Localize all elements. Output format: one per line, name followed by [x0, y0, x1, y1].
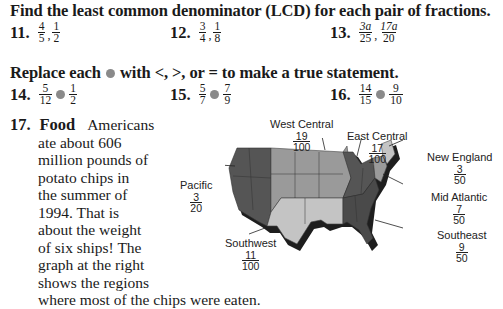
region-label-southwest: Southwest 11100 — [225, 238, 276, 271]
fraction: 1415 — [359, 83, 373, 106]
fraction: 17a20 — [379, 21, 398, 44]
region-label-west-central: West Central 19100 — [270, 119, 333, 152]
exercise-13: 13. 3a25 , 17a20 — [330, 21, 399, 44]
exercise-number: 11. — [10, 23, 30, 43]
fraction: 512 — [39, 83, 53, 106]
fraction: 18 — [213, 21, 221, 44]
circle-placeholder-icon — [106, 69, 115, 78]
fraction: 57 — [199, 83, 207, 106]
fraction: 79 — [223, 83, 231, 106]
problem-17: 17. Food Americans ate about 606 million… — [10, 116, 261, 309]
fraction: 910 — [389, 83, 403, 106]
exercise-16: 16. 1415 910 — [330, 83, 404, 106]
region-label-pacific: Pacific 320 — [180, 180, 212, 213]
fraction: 3a25 — [359, 21, 373, 44]
exercise-12: 12. 34 , 18 — [170, 21, 222, 44]
exercise-number: 12. — [170, 23, 191, 43]
circle-placeholder-icon — [56, 90, 65, 99]
exercise-11: 11. 45 , 12 — [10, 21, 61, 44]
fraction: 34 — [199, 21, 207, 44]
region-label-east-central: East Central 17100 — [347, 131, 408, 164]
circle-placeholder-icon — [376, 90, 385, 99]
section-heading-lcd: Find the least common denominator (LCD) … — [10, 1, 490, 21]
exercise-number: 14. — [10, 85, 31, 105]
exercise-number: 16. — [330, 85, 351, 105]
region-label-southeast: Southeast 950 — [437, 230, 487, 263]
exercise-number: 13. — [330, 23, 351, 43]
fraction: 12 — [52, 21, 60, 44]
region-label-new-england: New England 350 — [427, 152, 492, 185]
fraction: 12 — [69, 83, 77, 106]
exercise-number: 15. — [170, 85, 191, 105]
exercise-14: 14. 512 12 — [10, 83, 78, 106]
problem-topic: Food — [40, 115, 76, 134]
circle-placeholder-icon — [210, 90, 219, 99]
region-label-mid-atlantic: Mid Atlantic 750 — [431, 192, 487, 225]
section-heading-compare: Replace each with <, >, or = to make a t… — [10, 63, 399, 83]
fraction: 45 — [38, 21, 46, 44]
exercise-number: 17. — [10, 115, 31, 134]
exercise-15: 15. 57 79 — [170, 83, 232, 106]
